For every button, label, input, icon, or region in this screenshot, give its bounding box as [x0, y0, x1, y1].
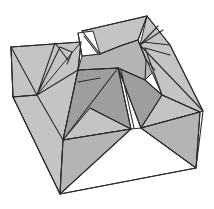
folded-faces	[11, 16, 203, 194]
origami-box-drawing	[0, 0, 214, 209]
origami-diagram	[0, 0, 214, 209]
